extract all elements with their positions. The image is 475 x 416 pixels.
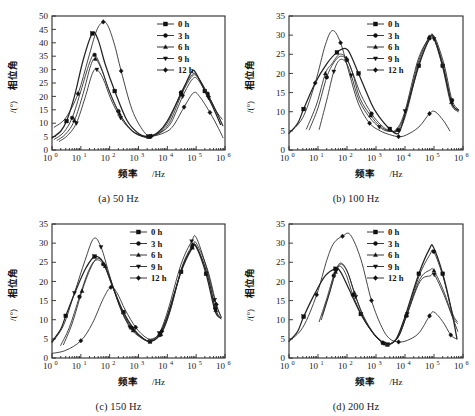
legend-label: 0 h <box>388 227 399 237</box>
x-tick-label: 106 <box>454 359 469 371</box>
data-point-marker <box>113 89 117 93</box>
y-tick-label: 10 <box>276 107 286 117</box>
x-tick-label: 106 <box>216 151 231 163</box>
x-tick-label: 101 <box>309 359 324 371</box>
x-axis-title-unit: /Hz <box>152 169 165 179</box>
x-tick-label: 100 <box>280 151 295 163</box>
legend-item-9-h[interactable]: 9 h <box>130 262 162 272</box>
series-line <box>289 233 457 342</box>
x-tick-base: 10 <box>396 153 406 163</box>
legend-marker-circle-icon <box>374 34 378 38</box>
x-tick-label: 103 <box>130 151 145 163</box>
x-tick-exponent: 5 <box>437 151 440 158</box>
data-point-marker <box>80 289 84 293</box>
x-tick-exponent: 5 <box>199 359 202 366</box>
y-tick-label: 20 <box>39 92 49 102</box>
y-axis-title-main: 相位角 <box>244 60 255 90</box>
series-6-h <box>63 244 221 344</box>
y-tick-label: 40 <box>39 38 49 48</box>
y-tick-label: 10 <box>39 315 49 325</box>
legend-item-3-h[interactable]: 3 h <box>157 31 189 41</box>
legend-item-12-h[interactable]: 12 h <box>367 65 404 75</box>
panel-a-series-group <box>52 20 223 142</box>
x-axis-title-unit: /Hz <box>152 377 165 387</box>
x-tick-base: 10 <box>43 361 53 371</box>
y-tick-label: 45 <box>39 25 49 35</box>
x-tick-exponent: 1 <box>321 151 324 158</box>
legend-item-12-h[interactable]: 12 h <box>130 273 167 283</box>
legend-item-3-h[interactable]: 3 h <box>130 239 162 249</box>
x-axis-title-unit: /Hz <box>390 377 403 387</box>
x-tick-base: 10 <box>187 153 197 163</box>
series-line <box>306 34 458 132</box>
legend-item-9-h[interactable]: 9 h <box>157 54 189 64</box>
x-tick-label: 102 <box>338 359 353 371</box>
x-tick-base: 10 <box>187 361 197 371</box>
panel-d-legend: 0 h3 h6 h9 h12 h <box>367 227 404 283</box>
legend-marker-circle-icon <box>374 242 378 246</box>
legend-item-12-h[interactable]: 12 h <box>157 65 194 75</box>
x-tick-base: 10 <box>43 153 53 163</box>
legend-marker-square-icon <box>374 230 378 234</box>
legend-label: 9 h <box>178 54 189 64</box>
y-tick-label: 35 <box>39 219 49 229</box>
x-tick-label: 101 <box>72 151 87 163</box>
legend-item-0-h[interactable]: 0 h <box>157 19 189 29</box>
subplot-caption-c: (c) 150 Hz <box>0 401 237 412</box>
legend-label: 9 h <box>388 54 399 64</box>
x-tick-base: 10 <box>425 361 435 371</box>
legend-label: 12 h <box>388 273 404 283</box>
legend-marker-diamond-icon <box>163 68 167 73</box>
y-axis-title-main: 相位角 <box>7 268 18 298</box>
y-tick-label: 35 <box>39 51 49 61</box>
legend-item-6-h[interactable]: 6 h <box>367 250 399 260</box>
legend-item-3-h[interactable]: 3 h <box>367 31 399 41</box>
legend-item-6-h[interactable]: 6 h <box>130 250 162 260</box>
x-tick-base: 10 <box>158 153 168 163</box>
y-axis-title-unit: /(°) <box>8 101 18 113</box>
legend-label: 12 h <box>388 65 404 75</box>
series-9-h <box>59 68 223 141</box>
y-tick-label: 5 <box>281 126 286 136</box>
series-3-h <box>61 244 221 346</box>
y-axis-title-main: 相位角 <box>244 268 255 298</box>
data-point-marker <box>396 134 400 139</box>
x-tick-base: 10 <box>367 153 377 163</box>
x-tick-label: 106 <box>454 151 469 163</box>
x-tick-label: 101 <box>72 359 87 371</box>
x-tick-exponent: 2 <box>350 151 353 158</box>
data-point-marker <box>335 50 339 54</box>
x-tick-exponent: 4 <box>170 151 174 158</box>
panel-b-legend: 0 h3 h6 h9 h12 h <box>367 19 404 75</box>
x-tick-exponent: 3 <box>141 151 144 158</box>
legend-item-12-h[interactable]: 12 h <box>367 273 404 283</box>
panel-a-svg: 0510152025303540455010010110210310410510… <box>0 0 237 208</box>
legend-item-3-h[interactable]: 3 h <box>367 239 399 249</box>
y-tick-label: 25 <box>39 78 49 88</box>
x-tick-exponent: 1 <box>321 359 324 366</box>
x-tick-base: 10 <box>280 361 290 371</box>
data-point-marker <box>101 20 105 25</box>
x-tick-exponent: 3 <box>379 151 382 158</box>
series-6-h <box>306 34 458 132</box>
y-axis-title-unit: /(°) <box>245 101 255 113</box>
legend-item-6-h[interactable]: 6 h <box>157 42 189 52</box>
legend-item-0-h[interactable]: 0 h <box>367 227 399 237</box>
panel-b-axes: 05101520253035100101102103104105106 <box>276 11 469 163</box>
legend-item-0-h[interactable]: 0 h <box>367 19 399 29</box>
x-tick-exponent: 5 <box>199 151 202 158</box>
x-tick-label: 102 <box>101 151 116 163</box>
legend-item-9-h[interactable]: 9 h <box>367 262 399 272</box>
x-tick-base: 10 <box>338 153 348 163</box>
y-axis-title: 相位角/(°) <box>244 268 255 321</box>
x-axis-title-main: 频率 <box>118 376 138 387</box>
x-tick-label: 103 <box>367 359 382 371</box>
legend-item-6-h[interactable]: 6 h <box>367 42 399 52</box>
y-tick-label: 25 <box>39 257 49 267</box>
legend-item-9-h[interactable]: 9 h <box>367 54 399 64</box>
legend-item-0-h[interactable]: 0 h <box>130 227 162 237</box>
x-axis-title: 频率/Hz <box>355 376 403 387</box>
data-point-marker <box>302 107 306 111</box>
panel-a-legend: 0 h3 h6 h9 h12 h <box>157 19 194 75</box>
y-tick-label: 15 <box>276 88 286 98</box>
